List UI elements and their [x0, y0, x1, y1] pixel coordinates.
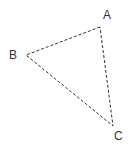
vertex-label-b: B [9, 48, 17, 62]
triangle-diagram: A B C [0, 0, 130, 150]
vertex-label-c: C [114, 129, 123, 143]
triangle-abc [26, 27, 113, 126]
vertex-label-a: A [103, 8, 111, 22]
